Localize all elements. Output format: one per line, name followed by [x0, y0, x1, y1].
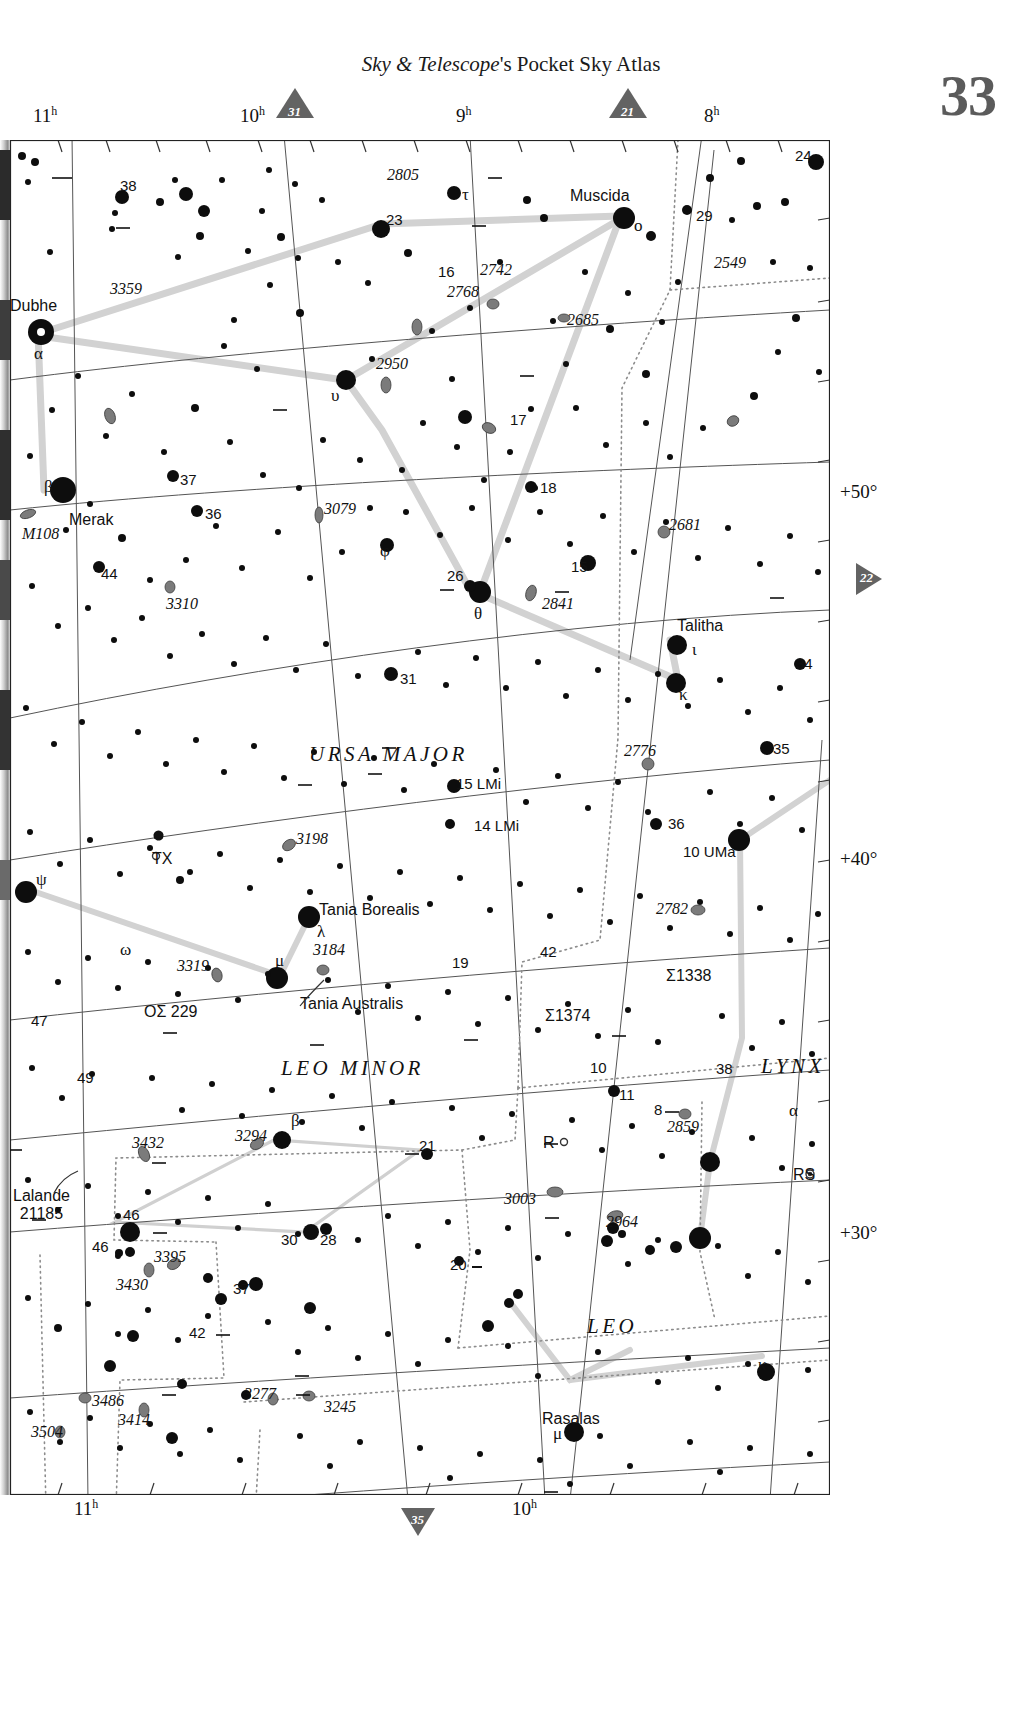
dec-label-plus30: +30°: [840, 1222, 877, 1244]
double-sigma1338-label: Σ1338: [666, 968, 711, 984]
bayer-upsilon-uma: υ: [331, 387, 339, 404]
dec-label-plus50: +50°: [840, 481, 877, 503]
ngc-3414-label: 3414: [118, 1412, 150, 1428]
constellation-label-lynx: LYNX: [761, 1056, 825, 1077]
chart-link-22-label: 22: [860, 570, 873, 586]
bayer-psi-uma: ψ: [36, 871, 47, 888]
ngc-2805-label: 2805: [387, 167, 419, 183]
flamsteed-20-leader: [472, 1266, 482, 1268]
constellation-label-leo: LEO: [587, 1316, 637, 1337]
flamsteed-10-lmi: 10: [590, 1060, 607, 1075]
bayer-mu-uma: μ: [275, 952, 284, 969]
flamsteed-20-lmi: 20: [450, 1257, 467, 1272]
flamsteed-8-lmi: 8: [654, 1102, 662, 1117]
ngc-2964-label: 2964: [606, 1214, 638, 1230]
flamsteed-21-lmi: 21: [419, 1138, 436, 1153]
flamsteed-18-uma: 18: [540, 480, 557, 495]
ra-label-10h-top: 10h: [240, 104, 265, 127]
masthead-suffix: 's Pocket Sky Atlas: [500, 52, 661, 76]
star-label-rasalas: Rasalas: [542, 1411, 600, 1427]
lalande-leader-line: [50, 1167, 90, 1195]
chart-link-21-label: 21: [621, 104, 634, 120]
ngc-3294-label: 3294: [235, 1128, 267, 1144]
chart-link-35-label: 35: [411, 1512, 424, 1528]
flamsteed-35-lyn: 35: [773, 741, 790, 756]
flamsteed-26-uma: 26: [447, 568, 464, 583]
ngc-3504-label: 3504: [31, 1424, 63, 1440]
bayer-kappa-uma: κ: [679, 686, 688, 703]
flamsteed-16-uma: 16: [438, 264, 455, 279]
bayer-omicron-uma: ο: [634, 217, 643, 234]
frame-ticks: [58, 140, 830, 1495]
bayer-phi-uma: φ: [380, 542, 390, 559]
ngc-2859-label: 2859: [667, 1119, 699, 1135]
star-label-muscida: Muscida: [570, 188, 630, 204]
bayer-iota-uma: ι: [692, 641, 697, 658]
flamsteed-46-lmi: 46: [123, 1207, 140, 1222]
ngc-3198-label: 3198: [296, 831, 328, 847]
double-os229-label: OΣ 229: [144, 1004, 197, 1020]
flamsteed-14-lmi: 14 LMi: [474, 818, 519, 833]
flamsteed-31-uma: 31: [400, 671, 417, 686]
bayer-theta-uma: θ: [474, 605, 482, 622]
flamsteed-46-uma: 46: [92, 1239, 109, 1254]
flamsteed-24-uma: 24: [795, 148, 812, 163]
constellation-label-leo-minor: LEO MINOR: [281, 1058, 424, 1079]
bayer-kappa-leo: κ: [758, 1356, 767, 1373]
flamsteed-23-uma: 23: [386, 212, 403, 227]
bayer-mu-leo: μ: [553, 1425, 562, 1442]
flamsteed-44-uma: 44: [101, 566, 118, 581]
ngc-3430-label: 3430: [116, 1277, 148, 1293]
bayer-alpha-uma: α: [34, 345, 43, 362]
flamsteed-29-uma: 29: [696, 208, 713, 223]
bayer-tau-uma: τ: [462, 186, 469, 203]
ra-label-8h-top: 8h: [704, 104, 720, 127]
ngc-2782-label: 2782: [656, 901, 688, 917]
bayer-beta-lmi: β: [291, 1112, 300, 1129]
deepsky-objects: [19, 299, 741, 1438]
flamsteed-11-lmi: 11: [619, 1087, 635, 1102]
chart-link-31-label: 31: [288, 104, 301, 120]
flamsteed-37-lmi: 37: [233, 1281, 250, 1296]
atlas-page: Sky & Telescope's Pocket Sky Atlas 33 31…: [0, 0, 1022, 1721]
ngc-3079-label: 3079: [324, 501, 356, 517]
flamsteed-19-lmi: 19: [452, 955, 469, 970]
ngc-3003-label: 3003: [504, 1191, 536, 1207]
flamsteed-36-lyn: 36: [668, 816, 685, 831]
bayer-lambda-uma: λ: [317, 923, 325, 940]
flamsteed-15-lmi: 15 LMi: [456, 776, 501, 791]
ra-label-10h-bottom: 10h: [512, 1497, 537, 1520]
ngc-3319-label: 3319: [177, 958, 209, 974]
ngc-3277-label: 3277: [244, 1386, 276, 1402]
ra-label-11h-bottom: 11h: [74, 1497, 98, 1520]
ngc-3486-label: 3486: [92, 1393, 124, 1409]
ngc-2841-label: 2841: [542, 596, 574, 612]
constellation-boundaries: [40, 140, 830, 1495]
flamsteed-17-uma: 17: [510, 412, 527, 427]
page-number: 33: [940, 62, 996, 129]
flamsteed-49-uma: 49: [77, 1070, 94, 1085]
ra-label-9h-top: 9h: [456, 104, 472, 127]
dec-label-plus40: +40°: [840, 848, 877, 870]
ngc-2549-label: 2549: [714, 255, 746, 271]
bayer-omega-uma: ω: [120, 941, 131, 958]
star-label-tania-borealis: Tania Borealis: [319, 902, 420, 918]
constellation-label-ursa-major: URSA MAJOR: [309, 744, 468, 765]
ngc-2685-label: 2685: [567, 312, 599, 328]
m108-label: M108: [22, 526, 59, 542]
flamsteed-38-lyn: 38: [716, 1061, 733, 1076]
masthead-brand: Sky & Telescope: [362, 52, 500, 76]
flamsteed-10-uma: 10 UMa: [683, 844, 736, 859]
ra-meridians: [72, 140, 822, 1495]
star-chart-map[interactable]: Dubhe Merak Muscida Talitha Tania Boreal…: [10, 140, 830, 1495]
ngc-2681-label: 2681: [669, 517, 701, 533]
masthead: Sky & Telescope's Pocket Sky Atlas: [0, 52, 1022, 77]
variable-r-label: R: [543, 1135, 555, 1151]
variable-rs-label: RS: [793, 1167, 815, 1183]
ngc-3310-label: 3310: [166, 596, 198, 612]
variable-tx-label: TX: [152, 851, 172, 867]
flamsteed-37-uma: 37: [180, 472, 197, 487]
ngc-3359-label: 3359: [110, 281, 142, 297]
ngc-3245-label: 3245: [324, 1399, 356, 1415]
star-label-dubhe: Dubhe: [10, 298, 57, 314]
